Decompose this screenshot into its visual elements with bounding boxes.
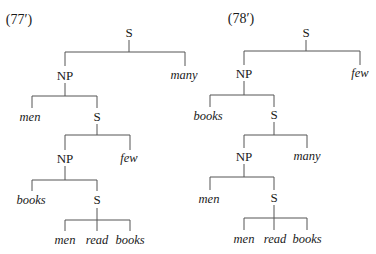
node-noun: men (20, 111, 41, 124)
node-quantifier: many (170, 69, 197, 82)
node-np: NP (236, 150, 253, 163)
node-noun: books (16, 194, 45, 207)
node-s: S (93, 193, 100, 206)
node-s: S (270, 191, 277, 204)
node-np: NP (57, 152, 74, 165)
node-quantifier: few (351, 67, 368, 80)
leaf-word: men (55, 234, 76, 247)
tree-branches (0, 0, 376, 254)
leaf-word: books (292, 233, 321, 246)
example-label: (78′) (228, 12, 254, 26)
node-s: S (93, 110, 100, 123)
node-quantifier: many (293, 150, 320, 163)
node-s: S (270, 108, 277, 121)
node-noun: men (199, 193, 220, 206)
example-label: (77′) (6, 13, 32, 27)
node-np: NP (236, 67, 253, 80)
leaf-word: read (86, 234, 108, 247)
node-np: NP (57, 69, 74, 82)
leaf-word: books (115, 234, 144, 247)
node-s-root: S (302, 26, 309, 39)
node-quantifier: few (120, 152, 137, 165)
node-noun: books (193, 110, 222, 123)
leaf-word: men (234, 233, 255, 246)
leaf-word: read (264, 233, 286, 246)
node-s-root: S (125, 26, 132, 39)
